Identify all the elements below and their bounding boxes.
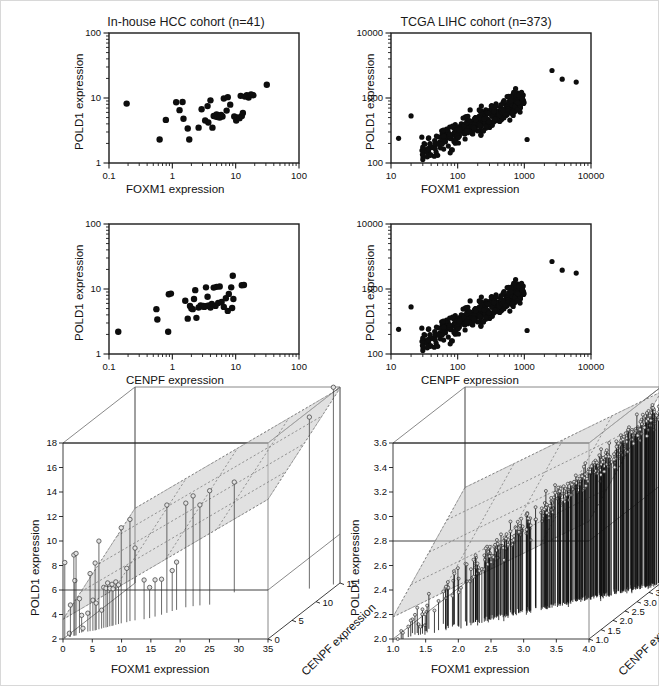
data-point [173,99,179,105]
data-point-3d [469,568,472,571]
data-point-3d [88,571,92,575]
data-point [396,136,401,141]
data-point [425,146,430,151]
data-point-3d [191,494,195,498]
data-point-3d [453,572,456,575]
data-point [515,291,520,296]
data-point [434,324,439,329]
data-point [420,157,425,162]
data-point [560,268,565,273]
data-point-3d [585,477,588,480]
data-point [482,116,487,121]
data-point-3d [153,578,157,582]
data-point-3d [525,528,528,531]
data-point [433,146,438,151]
data-point [507,308,512,313]
data-point [486,111,491,116]
tick-label: 20 [175,643,186,654]
data-point [478,314,483,319]
data-point-3d [86,611,90,615]
data-point-3d [456,567,459,570]
data-point [468,107,473,112]
data-point [420,145,425,150]
data-point-3d [465,563,468,566]
data-point-3d [409,619,412,622]
tick-label: 3.2 [374,486,387,497]
data-point-3d [640,423,643,426]
data-point-3d [63,560,67,564]
data-point [467,309,472,314]
data-point [487,311,492,316]
data-point-3d [561,498,564,501]
data-point-3d [198,503,202,507]
panel-top-right-plot: 10100100010000100100010000 [346,15,606,201]
data-point-3d [545,511,548,514]
data-point-3d [93,561,97,565]
data-point-3d [426,604,429,607]
data-point [511,90,516,95]
data-point [226,291,232,297]
data-point [464,128,469,133]
data-point-3d [427,592,430,595]
tick-label: 1.5 [419,643,432,654]
data-point [426,326,431,331]
data-point-3d [582,465,585,468]
tick-label: 10 [230,170,241,181]
data-point [420,348,425,353]
data-point [441,147,446,152]
data-point-3d [459,586,462,589]
data-point [203,284,209,290]
data-point [441,325,446,330]
data-point-3d [472,575,475,578]
data-point-3d [615,445,618,448]
data-point [176,107,182,113]
data-point-3d [307,415,311,419]
data-point [182,298,188,304]
data-point [491,109,496,114]
data-point [396,327,401,332]
tick-label: 100 [85,27,101,38]
data-point [515,298,520,303]
tick-label: 2 [52,633,57,644]
data-point-3d [574,474,577,477]
data-point-3d [142,578,146,582]
data-point-3d [527,517,530,520]
data-point-3d [653,410,656,413]
data-point-3d [81,626,85,630]
tick-label: 0.1 [102,170,115,181]
data-point-3d [401,631,404,634]
tick-label: 100 [450,361,466,372]
tick-label: 3.5 [550,643,563,654]
data-point [463,327,468,332]
data-point [441,128,446,133]
data-point-3d [442,590,445,593]
data-point [185,125,191,131]
data-point-3d [413,613,416,616]
data-point [153,306,159,312]
data-point [425,337,430,342]
tick-label: 5 [90,643,95,654]
data-point [549,259,554,264]
data-point-3d [548,517,551,520]
data-point-3d [125,566,129,570]
tick-label: 12 [46,511,57,522]
tick-label: 1000 [362,283,383,294]
tick-label: 10 [46,535,57,546]
panel-top-right: TCGA LIHC cohort (n=373) POLD1 expressio… [346,15,606,201]
data-point [419,326,424,331]
data-point [519,287,524,292]
data-point-3d [484,547,487,550]
data-point [428,152,433,157]
data-point [447,132,452,137]
tick-label: 0 [275,634,280,645]
tick-label: 2.0 [452,643,465,654]
data-point-3d [424,613,427,616]
data-point [228,284,234,290]
data-point-3d [170,568,174,572]
data-point [510,301,515,306]
data-point-3d [407,625,410,628]
data-point-3d [630,431,633,434]
tick-label: 5 [299,615,304,626]
data-point [491,300,496,305]
data-point-3d [635,413,638,416]
